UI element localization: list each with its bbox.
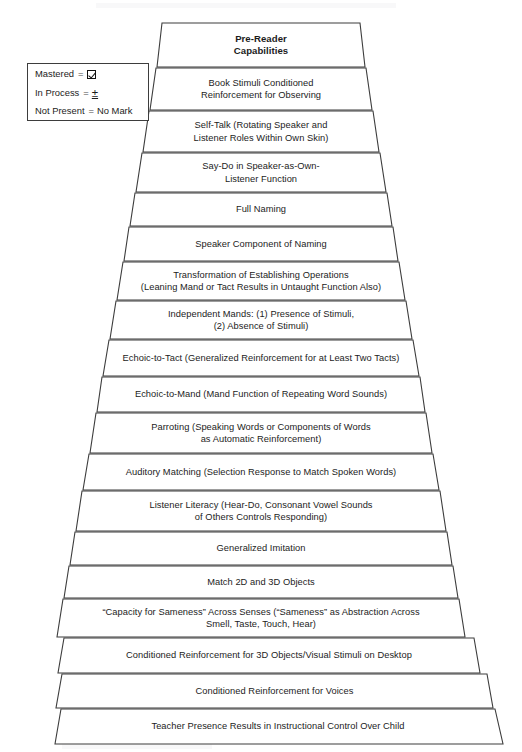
pyramid-band-label-12: Auditory Matching (Selection Response to… [93,454,429,490]
pyramid-diagram: Pre-Reader CapabilitiesBook Stimuli Cond… [0,0,522,752]
checkbox-glyph [87,70,96,79]
legend-row-in-process: In Process = ± [35,87,142,98]
pyramid-band-label-17: Conditioned Reinforcement for 3D Objects… [68,638,470,673]
legend-term-in-process: In Process [35,87,79,98]
legend-term-mastered: Mastered [35,68,74,79]
pyramid-band-label-6: Speaker Component of Naming [133,227,389,261]
pyramid-band-label-8: Independent Mands: (1) Presence of Stimu… [120,301,402,339]
pyramid-band-label-4: Say-Do in Speaker-as-Own- Listener Funct… [146,153,376,192]
pyramid-band-label-19: Teacher Presence Results in Instructiona… [65,709,491,744]
pyramid-band-label-15: Match 2D and 3D Objects [73,566,449,598]
legend-row-mastered: Mastered = [35,68,142,79]
pyramid-band-label-16: “Capacity for Sameness” Across Senses (“… [67,599,455,637]
legend-term-not-present: Not Present [35,105,85,116]
pyramid-band-label-5: Full Naming [139,193,383,226]
pyramid-band-label-18: Conditioned Reinforcement for Voices [66,674,483,708]
legend-value-not-present: No Mark [97,105,132,116]
pyramid-band-label-13: Listener Literacy (Hear-Do, Consonant Vo… [86,491,436,531]
pyramid-band-label-3: Self-Talk (Rotating Speaker and Listener… [153,111,369,152]
legend-equals-mastered: = [78,68,83,79]
pyramid-band-label-1: Pre-Reader Capabilities [166,23,356,67]
pyramid-band-label-7: Transformation of Establishing Operation… [127,262,395,300]
pyramid-band-label-2: Book Stimuli Conditioned Reinforcement f… [160,68,362,110]
pyramid-band-label-9: Echoic-to-Tact (Generalized Reinforcemen… [113,340,409,376]
legend-equals-in-process: = [83,87,88,98]
pyramid-band-label-11: Parroting (Speaking Words or Components … [100,413,422,453]
plus-minus-icon: ± [92,88,98,98]
pyramid-band-label-10: Echoic-to-Mand (Mand Function of Repeati… [106,377,416,412]
legend-row-not-present: Not Present = No Mark [35,105,142,116]
checkbox-checked-icon [87,69,96,79]
legend-equals-not-present: = [89,105,94,116]
legend: Mastered = In Process = ± Not Present = … [27,63,149,121]
pyramid-band-label-14: Generalized Imitation [79,532,443,565]
